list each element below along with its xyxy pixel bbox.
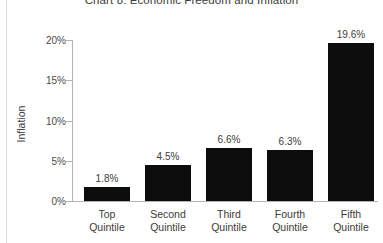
- bar-value-label: 1.8%: [77, 173, 137, 184]
- x-category-label: FifthQuintile: [315, 208, 383, 234]
- bar: [328, 43, 374, 201]
- y-tick-label: 10%: [34, 115, 66, 126]
- y-tick-mark: [66, 161, 72, 162]
- bar: [267, 150, 313, 201]
- y-tick-label: 5%: [34, 155, 66, 166]
- bar: [145, 165, 191, 201]
- y-tick-mark: [66, 201, 72, 202]
- y-axis-label: Inflation: [15, 89, 27, 159]
- y-tick-mark: [66, 80, 72, 81]
- bar: [84, 187, 130, 201]
- chart-title: Chart 8: Economic Freedom and Inflation: [0, 0, 383, 6]
- y-axis-line: [72, 40, 73, 201]
- bar-value-label: 19.6%: [321, 29, 381, 40]
- bar-value-label: 4.5%: [138, 151, 198, 162]
- bar-value-label: 6.6%: [199, 134, 259, 145]
- page-left-border: [6, 0, 7, 243]
- y-tick-label: 0%: [34, 196, 66, 207]
- chart-page: Chart 8: Economic Freedom and Inflation …: [0, 0, 383, 243]
- x-category-line: Fifth: [315, 208, 383, 221]
- y-tick-label: 15%: [34, 75, 66, 86]
- bar: [206, 148, 252, 201]
- y-tick-label: 20%: [34, 35, 66, 46]
- x-category-line: Quintile: [315, 221, 383, 234]
- bar-value-label: 6.3%: [260, 136, 320, 147]
- x-axis-line: [72, 201, 378, 202]
- y-tick-mark: [66, 40, 72, 41]
- y-tick-mark: [66, 121, 72, 122]
